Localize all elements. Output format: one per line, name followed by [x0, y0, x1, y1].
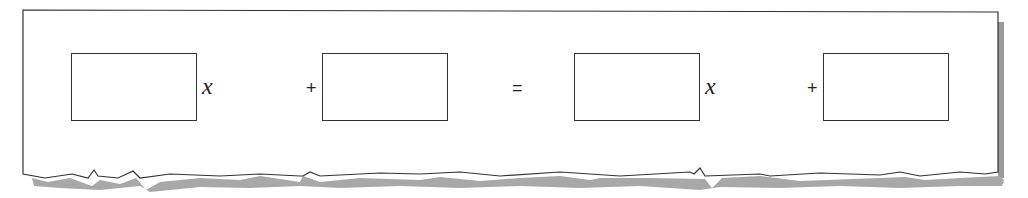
equals-sign: = — [512, 79, 523, 97]
blank-box-4[interactable] — [823, 53, 949, 121]
blank-box-2[interactable] — [322, 53, 448, 121]
blank-box-3[interactable] — [574, 53, 700, 121]
variable-x-1: x — [202, 74, 213, 98]
plus-sign-2: + — [807, 79, 818, 97]
variable-x-2: x — [705, 74, 716, 98]
blank-box-1[interactable] — [71, 53, 197, 121]
plus-sign-1: + — [306, 79, 317, 97]
